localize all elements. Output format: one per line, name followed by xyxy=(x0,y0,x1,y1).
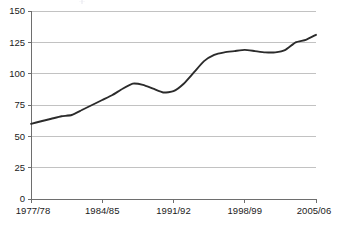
y-tick-label: 50 xyxy=(14,131,25,142)
y-tick-label: 150 xyxy=(9,5,25,16)
y-tick-label: 75 xyxy=(14,99,25,110)
x-tick-label: 2005/06 xyxy=(297,205,331,216)
line-chart: 0255075100125150 1977/781984/851991/9219… xyxy=(0,0,338,225)
y-tick-label: 125 xyxy=(9,37,25,48)
x-tick-marks-group xyxy=(31,199,316,203)
x-tick-label: 1998/99 xyxy=(228,205,262,216)
gridlines-group xyxy=(31,11,316,168)
top-edge-artifact xyxy=(79,0,85,4)
y-tick-marks-group xyxy=(28,11,32,199)
y-tick-label: 25 xyxy=(14,162,25,173)
y-tick-label: 0 xyxy=(20,193,25,204)
y-tick-label: 100 xyxy=(9,68,25,79)
chart-container: 0255075100125150 1977/781984/851991/9219… xyxy=(0,0,338,225)
x-tick-label: 1977/78 xyxy=(16,205,50,216)
x-tick-label: 1984/85 xyxy=(85,205,119,216)
y-axis-tick-labels: 0255075100125150 xyxy=(9,5,25,204)
x-tick-label: 1991/92 xyxy=(156,205,190,216)
data-series-line xyxy=(31,35,316,124)
x-axis-tick-labels: 1977/781984/851991/921998/992005/06 xyxy=(16,205,331,216)
